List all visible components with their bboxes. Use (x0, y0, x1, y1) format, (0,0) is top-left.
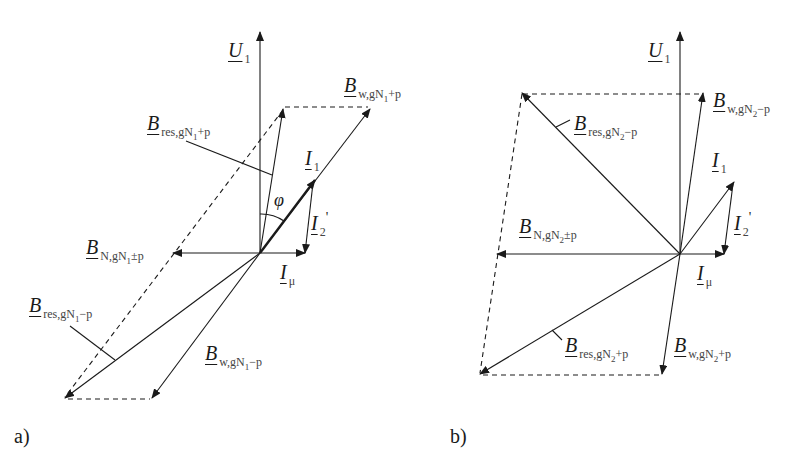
label-Imu-a: Iμ (280, 262, 295, 282)
label-U1-b: U1 (648, 40, 670, 60)
vector-I2p-b (724, 184, 733, 254)
panel-label-a: a) (14, 425, 30, 448)
vector-B-res-plus-a (260, 109, 283, 253)
angle-arc-a (260, 214, 284, 221)
vector-B-w-plus-b (662, 254, 680, 374)
label-I2p-a: I2' (311, 213, 328, 233)
leader-res-plus-a (186, 141, 272, 175)
label-B-res-plus-a: Bres,gN1+p (147, 113, 210, 133)
label-B-w-plus-a: Bw,gN1+p (344, 75, 401, 95)
dashed-left-b (480, 94, 522, 373)
leader-res-minus-a (70, 326, 115, 360)
leader-res-plus-b (552, 330, 562, 340)
vector-B-w-minus-b (680, 93, 703, 254)
angle-phi-label: φ (274, 190, 284, 211)
panel-label-b: b) (450, 425, 467, 448)
label-B-w-plus-b: Bw,gN2+p (674, 335, 731, 355)
label-B-res-minus-b: Bres,gN2−p (574, 113, 637, 133)
label-B-N-a: BN,gN1±p (86, 237, 144, 257)
vector-B-res-minus-a (65, 253, 260, 398)
label-B-res-minus-a: Bres,gN1−p (29, 295, 92, 315)
label-U1-a: U1 (228, 40, 250, 60)
label-I1-b: I1 (712, 150, 727, 170)
vector-B-w-minus-a (152, 253, 260, 398)
label-B-w-minus-b: Bw,gN2−p (713, 90, 770, 110)
label-B-w-minus-a: Bw,gN1−p (205, 343, 262, 363)
leader-res-minus-b (556, 120, 570, 127)
label-Imu-b: Iμ (697, 263, 712, 283)
label-B-res-plus-b: Bres,gN2+p (565, 335, 628, 355)
label-I1-a: I1 (305, 148, 320, 168)
label-B-N-b: BN,gN2±p (519, 216, 577, 236)
label-I2p-b: I2' (734, 213, 751, 233)
panel-b-diagram (480, 32, 734, 375)
